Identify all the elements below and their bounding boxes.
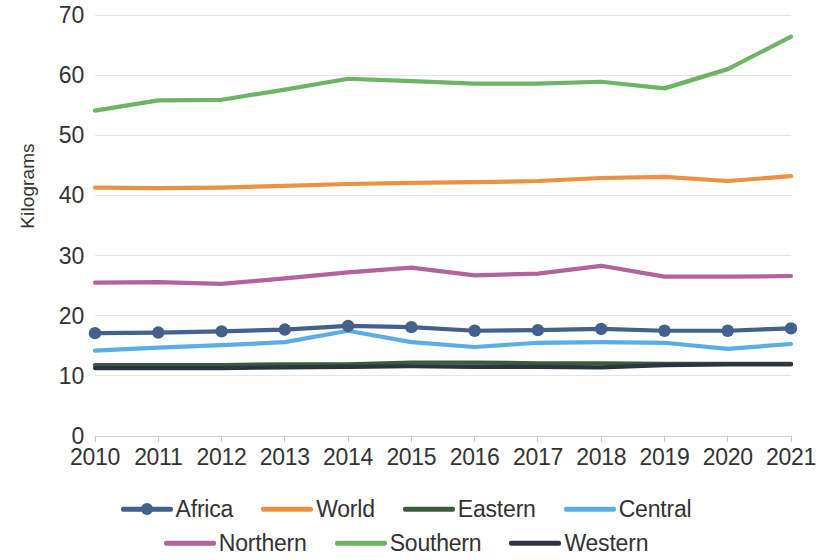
x-tick-label: 2015 [386,444,436,471]
x-tick-label: 2011 [134,444,182,471]
data-point-africa [342,320,354,332]
data-point-africa [785,322,797,334]
x-tick-label: 2014 [323,444,373,471]
x-tick-label: 2021 [766,444,816,471]
y-tick-label: 40 [0,182,84,209]
legend-swatch-world-icon [261,501,313,517]
legend-swatch-western-icon [509,535,561,551]
y-tick-label: 70 [0,2,84,29]
data-point-africa [722,325,734,337]
x-tick-label: 2017 [513,444,563,471]
legend-label: Northern [219,530,307,557]
data-point-africa [468,325,480,337]
x-tick-label: 2013 [260,444,310,471]
legend-row-secondary: NorthernSouthernWestern [0,526,812,560]
legend-swatch-northern-icon [164,535,216,551]
series-line-southern [95,37,791,111]
plot-area [95,15,791,436]
legend-swatch-eastern-icon [403,501,455,517]
legend-item-western[interactable]: Western [509,530,648,557]
plot-svg [95,15,791,436]
x-axis-tick-labels: 2010201120122013201420152016201720182019… [95,444,791,478]
y-tick-label: 20 [0,302,84,329]
x-tick-label: 2016 [450,444,500,471]
y-tick-label: 30 [0,242,84,269]
data-point-africa [532,324,544,336]
series-line-africa [95,326,791,333]
legend-swatch-southern-icon [335,535,387,551]
data-point-africa [89,327,101,339]
y-tick-label: 10 [0,362,84,389]
legend-label: Southern [390,530,482,557]
y-tick-label: 60 [0,62,84,89]
data-point-africa [279,323,291,335]
legend-item-eastern[interactable]: Eastern [403,496,536,523]
x-tick-label: 2020 [703,444,753,471]
legend-item-central[interactable]: Central [564,496,692,523]
y-axis-tick-labels: 010203040506070 [0,0,84,460]
legend: AfricaWorldEasternCentral NorthernSouthe… [0,492,812,560]
data-point-africa [215,325,227,337]
x-tick-label: 2010 [70,444,120,471]
legend-label: World [316,496,375,523]
series-line-northern [95,266,791,284]
x-tick-label: 2018 [576,444,626,471]
legend-item-northern[interactable]: Northern [164,530,307,557]
legend-label: Central [619,496,692,523]
data-point-africa [405,321,417,333]
legend-label: Africa [176,496,234,523]
data-point-africa [658,325,670,337]
legend-label: Western [564,530,648,557]
legend-row-primary: AfricaWorldEasternCentral [0,492,812,526]
x-tick-label: 2019 [639,444,689,471]
legend-swatch-central-icon [564,501,616,517]
legend-item-southern[interactable]: Southern [335,530,482,557]
x-tick-label: 2012 [197,444,247,471]
legend-item-world[interactable]: World [261,496,375,523]
series-line-world [95,176,791,188]
legend-swatch-africa-icon [121,501,173,517]
y-tick-label: 50 [0,122,84,149]
legend-item-africa[interactable]: Africa [121,496,234,523]
data-point-africa [595,323,607,335]
legend-label: Eastern [458,496,536,523]
data-point-africa [152,326,164,338]
